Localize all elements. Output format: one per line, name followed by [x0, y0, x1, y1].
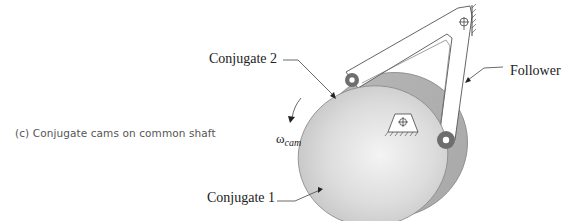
omega-subscript: cam	[285, 137, 302, 148]
figure-caption: (c) Conjugate cams on common shaft	[15, 127, 216, 139]
label-conjugate-1: Conjugate 1	[207, 190, 275, 206]
omega-symbol: ω	[276, 131, 285, 146]
label-follower: Follower	[510, 63, 561, 79]
label-omega-cam: ωcam	[276, 131, 301, 148]
top-roller	[345, 73, 359, 87]
rotation-arrow-icon	[288, 98, 301, 123]
arrowhead-icon	[465, 77, 471, 83]
diagram-graphics	[0, 0, 567, 221]
label-conjugate-2: Conjugate 2	[209, 51, 277, 67]
right-roller	[437, 131, 455, 149]
conjugate-cams-diagram: (c) Conjugate cams on common shaft Conju…	[0, 0, 567, 221]
